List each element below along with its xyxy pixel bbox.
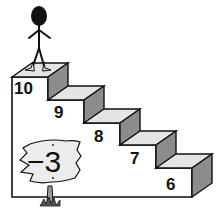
step-label-9: 9 <box>54 103 63 122</box>
step-label-7: 7 <box>130 149 139 168</box>
step-label-8: 8 <box>94 127 103 146</box>
step-label-6: 6 <box>166 175 175 194</box>
figure-head <box>31 6 47 26</box>
staircase-diagram: 10 9 8 7 6 −3 <box>0 0 220 216</box>
step-label-10: 10 <box>14 79 33 98</box>
sign-label: −3 <box>27 145 61 178</box>
stick-figure <box>25 6 51 71</box>
